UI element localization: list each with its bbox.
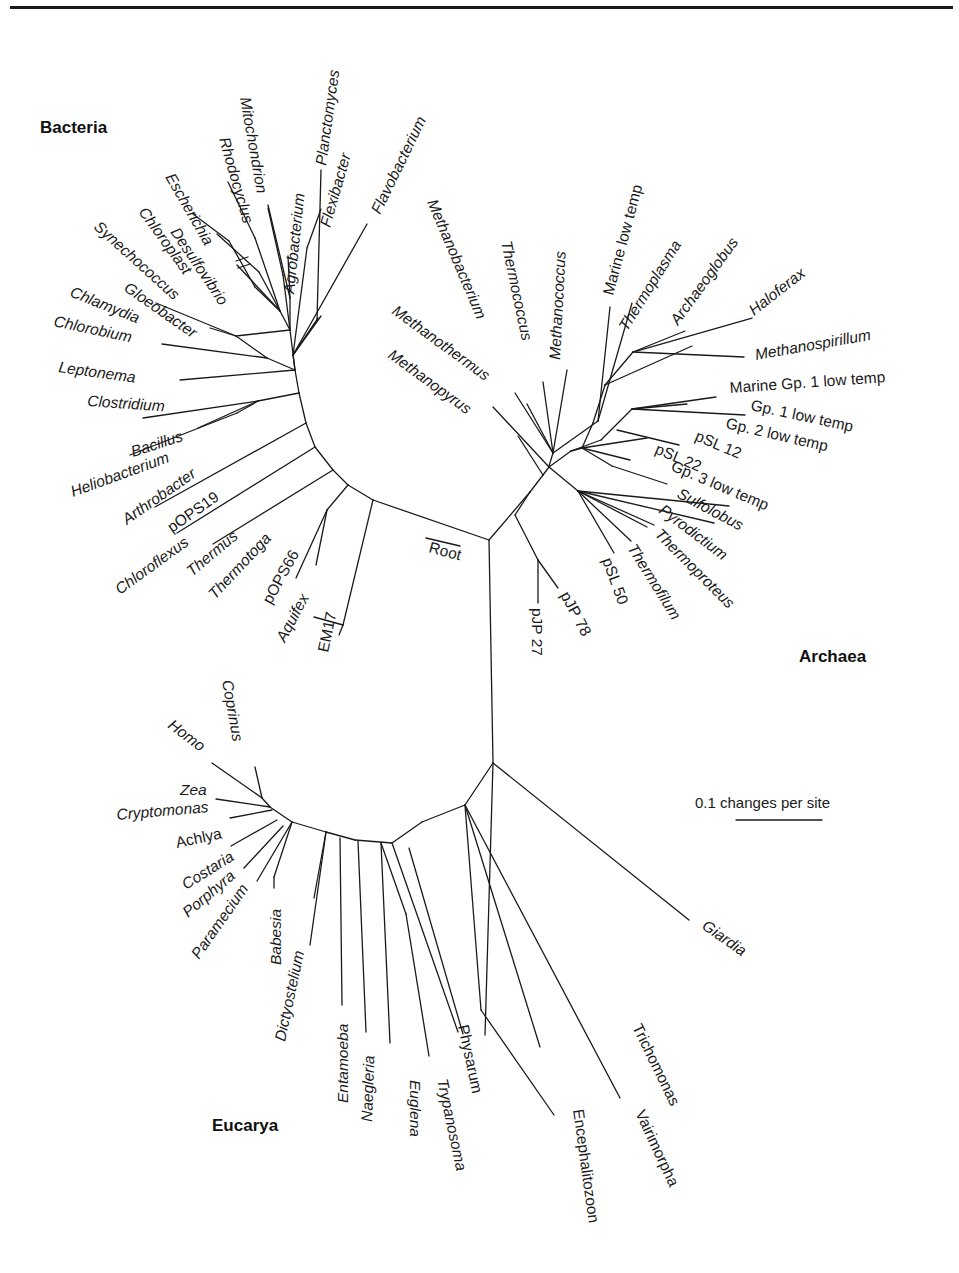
branch-segment	[633, 331, 685, 352]
branch-segment	[258, 393, 299, 401]
taxon-label: Babesia	[267, 909, 284, 965]
taxon-label: Methanococcus	[546, 251, 569, 361]
taxon-label: Euglena	[407, 1080, 424, 1137]
taxon-label: pJP 78	[557, 588, 595, 638]
taxon-label: pJP 27	[529, 608, 546, 656]
branch-segment	[578, 491, 654, 525]
scale-bar: 0.1 changes per site	[695, 794, 830, 820]
branch-segment	[392, 822, 422, 843]
taxon-label: Achlya	[174, 825, 223, 851]
branch-segment	[633, 318, 752, 352]
branch-segment	[327, 485, 348, 510]
taxon-label: Zea	[179, 781, 207, 798]
branch-segment	[515, 393, 553, 453]
branch-segment	[333, 470, 348, 485]
branch-segment	[481, 1010, 554, 1115]
branch-segment	[373, 500, 489, 540]
branch-segment	[306, 423, 315, 447]
branch-segment	[355, 840, 392, 843]
taxon-label: Methanobacterium	[424, 197, 490, 322]
branch-segment	[236, 330, 290, 336]
branch-segment	[257, 822, 292, 881]
branch-segment	[310, 832, 326, 945]
branch-segment	[315, 447, 333, 470]
branch-segment	[632, 397, 716, 409]
taxon-label: Marine Gp. 1 low temp	[729, 368, 886, 396]
branch-segment	[582, 423, 593, 448]
taxon-label: Homo	[165, 716, 209, 755]
branch-segment	[340, 838, 342, 1005]
branch-segment	[578, 491, 631, 541]
branch-segment	[270, 807, 292, 822]
taxon-label: pSL 50	[599, 555, 632, 607]
branch-segment	[598, 307, 610, 421]
taxon-label: Vairimorpha	[632, 1107, 682, 1189]
branch-segment	[543, 467, 549, 475]
branch-segment	[549, 467, 578, 491]
branch-segment	[538, 560, 558, 588]
branch-segment	[493, 763, 689, 920]
taxon-label: EM17	[314, 610, 339, 653]
branch-segment	[601, 409, 632, 440]
branch-segment	[406, 914, 429, 1056]
taxon-label: Clostridium	[87, 392, 166, 414]
taxon-label: Giardia	[699, 917, 750, 960]
domain-label-bacteria: Bacteria	[40, 118, 108, 137]
branch-segment	[230, 810, 272, 818]
branch-segment	[255, 238, 280, 311]
branch-segment	[216, 799, 270, 807]
scale-bar-label: 0.1 changes per site	[695, 794, 830, 811]
taxon-label: Marine low temp	[599, 183, 645, 297]
taxon-label: Trichomonas	[629, 1021, 683, 1109]
branch-segment	[339, 625, 343, 635]
taxon-label: Naegleria	[358, 1055, 377, 1122]
taxon-label: Coprinus	[219, 679, 247, 743]
branch-segment	[489, 540, 493, 763]
taxon-label: Leptonema	[58, 358, 138, 386]
taxon-label: Haloferax	[745, 263, 809, 318]
branch-segment	[268, 208, 283, 275]
branch-segment	[293, 224, 367, 355]
taxon-label: Physarum	[455, 1023, 486, 1095]
branch-segment	[582, 448, 630, 460]
domain-label-archaea: Archaea	[799, 647, 867, 666]
phylogenetic-tree: MitochondrionRhodocyclusEscherichiaDesul…	[0, 0, 959, 1273]
branch-segment	[348, 485, 373, 500]
branch-segment	[582, 448, 612, 466]
branch-segment	[177, 447, 315, 533]
branch-segment	[274, 822, 292, 877]
taxon-label: Entamoeba	[334, 1023, 351, 1103]
branch-segment	[485, 763, 493, 1035]
branch-segment	[465, 763, 493, 805]
branch-segment	[530, 475, 543, 492]
branch-segment	[553, 421, 598, 453]
taxon-label: Methanospirillum	[754, 326, 872, 363]
taxon-label: Cryptomonas	[116, 798, 210, 823]
branch-segment	[358, 841, 366, 1032]
branch-segment	[493, 407, 549, 467]
branch-segment	[553, 370, 567, 453]
branch-segment	[633, 352, 744, 357]
branch-segment	[515, 492, 530, 515]
branch-segment	[212, 763, 262, 798]
taxon-label: Encephalitozoon	[570, 1108, 603, 1224]
branch-segment	[465, 805, 620, 1098]
taxon-label: Thermococcus	[498, 239, 536, 342]
branch-segment	[296, 510, 327, 578]
branch-segment	[180, 370, 295, 380]
root-marker: Root	[426, 538, 464, 564]
branch-segment	[392, 843, 458, 1032]
branch-segment	[515, 515, 538, 560]
branch-segment	[409, 848, 463, 1034]
branch-segment	[465, 805, 481, 1010]
branch-segment	[210, 328, 236, 336]
branch-segment	[317, 170, 321, 320]
branch-segment	[231, 820, 277, 846]
branch-segment	[299, 393, 306, 423]
branch-segment	[343, 500, 373, 625]
branch-segment	[422, 805, 465, 822]
taxon-labels: MitochondrionRhodocyclusEscherichiaDesul…	[52, 68, 885, 1224]
taxon-label: Chloroflexus	[112, 533, 192, 598]
branch-segment	[292, 822, 326, 832]
branch-segment	[267, 358, 295, 370]
